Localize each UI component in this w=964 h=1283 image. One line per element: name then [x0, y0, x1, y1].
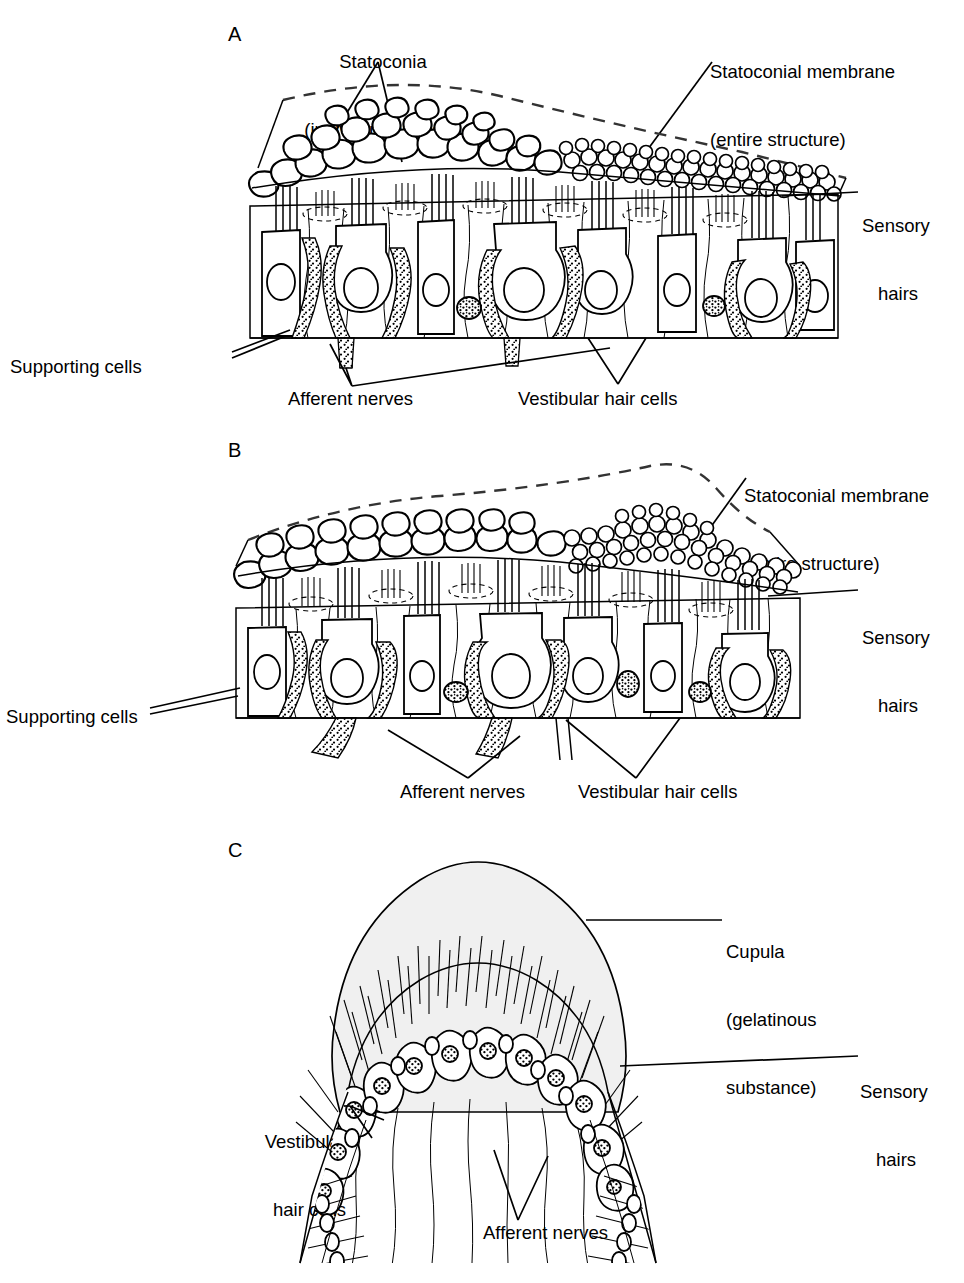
- sensory-hairs-short-b: [289, 563, 733, 617]
- leader-sensory-hairs-c: [620, 1056, 858, 1066]
- vestibular-epithelia-figure: A Statoconia (individual crystals) Stato…: [0, 0, 964, 1283]
- statoconia-layer-a: [249, 98, 841, 201]
- leader-supporting-cells-a2: [232, 336, 286, 358]
- leader-supporting-cells-a1: [232, 330, 290, 352]
- panel-c-illustration: [0, 820, 964, 1283]
- panel-b-illustration: [0, 430, 964, 820]
- supporting-cells-c: [352, 1099, 588, 1266]
- epithelium-b: [236, 598, 800, 760]
- vestibular-hair-cells-a: [262, 220, 834, 336]
- slab-edge-left-a: [258, 100, 283, 168]
- leader-statoconial-membrane-a: [640, 62, 712, 160]
- statoconia-small-a: [560, 139, 842, 202]
- leader-afferent-nerves-c: [494, 1150, 548, 1220]
- panel-a-illustration: [0, 0, 964, 430]
- leader-afferent-nerves-b-left: [388, 730, 468, 778]
- leader-vestibular-hair-cells-a: [588, 338, 646, 384]
- leader-afferent-nerves-a-right: [352, 348, 610, 386]
- nerve-nuclei-c: [315, 1195, 641, 1270]
- leader-vestibular-hair-cells-b: [566, 718, 680, 778]
